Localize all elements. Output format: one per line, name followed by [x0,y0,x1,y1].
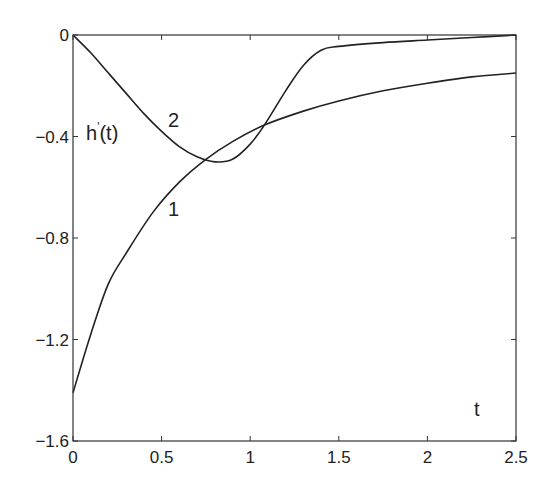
x-tick-label: 2.5 [504,448,528,467]
y-tick-label: −1.2 [35,331,69,350]
series-2-line [73,35,516,162]
x-axis-label: t [474,398,480,420]
y-tick-label: −1.6 [35,432,69,451]
y-tick-label: −0.8 [35,229,69,248]
x-tick-label: 0 [68,448,77,467]
x-tick-label: 0.5 [150,448,174,467]
curve-1-label: 1 [168,198,179,220]
y-tick-label: −0.4 [35,128,69,147]
axis-tick-labels: 00.511.522.50−0.4−0.8−1.2−1.6 [35,26,527,467]
y-axis-label: h'(t) [86,120,118,144]
y-tick-label: 0 [60,26,69,45]
curve-2-label: 2 [168,109,179,131]
plot-frame [73,35,516,441]
x-tick-label: 2 [423,448,432,467]
x-tick-label: 1.5 [327,448,351,467]
line-chart: 00.511.522.50−0.4−0.8−1.2−1.6 h'(t) 2 1 … [0,0,557,500]
plot-curves [73,35,516,393]
series-1-line [73,73,516,393]
x-tick-label: 1 [245,448,254,467]
axis-ticks [73,35,516,441]
